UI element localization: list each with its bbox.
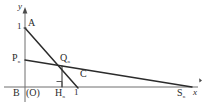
point-label-S-text: S xyxy=(177,87,183,98)
point-label-H-text: H xyxy=(55,87,62,98)
segment-a-to-x xyxy=(25,28,78,88)
geometry-figure: y x 1 1 A Pn Qn B (O) Hn C Sn xyxy=(0,0,204,109)
point-label-Q: Qn xyxy=(60,53,70,63)
x-axis-arrow xyxy=(199,78,202,82)
point-label-P-text: P xyxy=(12,52,18,63)
point-label-S: Sn xyxy=(177,88,185,98)
origin-label: (O) xyxy=(26,88,40,98)
y-axis-arrow xyxy=(23,7,28,13)
point-label-H: Hn xyxy=(55,88,65,98)
point-label-Q-sub: n xyxy=(68,59,71,64)
y-axis-label: y xyxy=(18,2,22,11)
point-label-S-sub: n xyxy=(183,94,186,99)
point-label-P: Pn xyxy=(12,53,20,63)
point-label-A: A xyxy=(28,18,35,28)
tick-label-y-1: 1 xyxy=(17,22,22,31)
point-label-C-text: C xyxy=(80,68,87,79)
point-label-B: B xyxy=(13,88,20,98)
tick-label-x-1: 1 xyxy=(74,88,79,97)
segment-p-to-s xyxy=(25,60,192,87)
point-label-A-text: A xyxy=(28,17,35,28)
point-label-B-text: B xyxy=(13,87,20,98)
x-axis xyxy=(4,78,202,87)
point-label-H-sub: n xyxy=(63,94,66,99)
point-label-C: C xyxy=(80,69,87,79)
point-label-Q-text: Q xyxy=(60,52,67,63)
point-label-P-sub: n xyxy=(18,59,21,64)
x-axis-label: x xyxy=(193,88,197,97)
